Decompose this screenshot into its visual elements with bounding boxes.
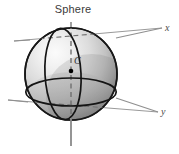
sphere-edge-shadow — [46, 54, 138, 138]
center-point-label: C — [74, 55, 81, 66]
center-dot — [69, 69, 74, 74]
y-axis-label: y — [161, 106, 165, 117]
x-axis-label: x — [165, 22, 169, 33]
sphere-diagram-svg — [0, 0, 179, 154]
sphere-diagram-figure: Sphere x y C — [0, 0, 179, 154]
sphere-body-group — [19, 28, 138, 140]
figure-title: Sphere — [0, 3, 146, 15]
x-axis-left-stub — [14, 40, 30, 41]
center-point-group — [69, 69, 74, 74]
